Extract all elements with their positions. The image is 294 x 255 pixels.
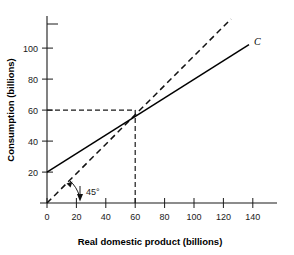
x-axis-title: Real domestic product (billions)	[78, 236, 223, 247]
x-tick-label-140: 140	[245, 212, 260, 222]
y-tick-label-40: 40	[28, 137, 38, 147]
consumption-function-chart: 20 40 60 80 100 0 20 40 60 80 100 120 14	[0, 0, 294, 255]
angle-arrow-lower	[77, 194, 83, 202]
angle-arrow-upper	[67, 182, 73, 188]
forty-five-degree-line	[47, 19, 231, 203]
x-tick-label-0: 0	[44, 212, 49, 222]
x-tick-label-20: 20	[71, 212, 81, 222]
angle-annotation-group: 45°	[67, 181, 101, 202]
y-tick-label-100: 100	[23, 44, 38, 54]
x-tick-labels-group: 0 20 40 60 80 100 120 140	[44, 212, 260, 222]
x-tick-label-80: 80	[160, 212, 170, 222]
x-tick-label-120: 120	[216, 212, 231, 222]
y-tick-label-80: 80	[28, 75, 38, 85]
y-tick-label-20: 20	[28, 168, 38, 178]
consumption-curve-label: C	[254, 36, 261, 47]
y-ticks-group	[42, 24, 58, 172]
chart-svg: 20 40 60 80 100 0 20 40 60 80 100 120 14	[0, 0, 294, 255]
y-tick-labels-group: 20 40 60 80 100	[23, 44, 38, 178]
angle-label: 45°	[86, 187, 100, 197]
y-tick-label-60: 60	[28, 106, 38, 116]
x-tick-label-100: 100	[186, 212, 201, 222]
consumption-line	[47, 45, 249, 173]
x-tick-label-60: 60	[130, 212, 140, 222]
x-tick-label-40: 40	[101, 212, 111, 222]
y-axis-title: Consumption (billions)	[5, 58, 16, 161]
